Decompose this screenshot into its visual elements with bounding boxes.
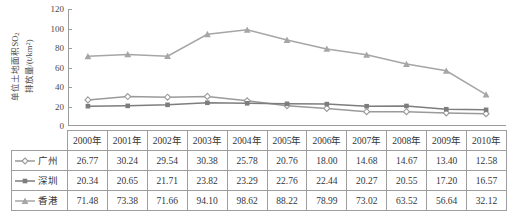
data-point-square-marker (165, 103, 170, 108)
table-row-header-square: 深圳 (12, 171, 68, 191)
data-point-square-marker (86, 104, 91, 109)
data-point-square-marker (364, 104, 369, 109)
table-cell: 30.24 (107, 151, 147, 171)
data-point-square-marker (325, 102, 330, 107)
data-point-square-marker (23, 178, 28, 183)
table-cell: 29.54 (147, 151, 187, 171)
table-column-header: 2010年 (467, 131, 507, 151)
table-cell: 30.38 (187, 151, 227, 171)
series-label: 深圳 (38, 176, 59, 186)
data-table-wrapper: 2000年2001年2002年2003年2004年2005年2006年2007年… (11, 130, 507, 211)
table-cell: 21.71 (147, 171, 187, 191)
data-point-diamond-marker (125, 94, 131, 100)
table-column-header: 2005年 (267, 131, 307, 151)
data-point-diamond-marker (165, 94, 171, 100)
table-cell: 20.27 (347, 171, 387, 191)
table-column-header: 2003年 (187, 131, 227, 151)
table-cell: 63.52 (387, 191, 427, 211)
table-cell: 14.68 (347, 151, 387, 171)
table-column-header: 2006年 (307, 131, 347, 151)
table-cell: 88.22 (267, 191, 307, 211)
legend-triangle-icon (14, 196, 36, 206)
table-cell: 20.55 (387, 171, 427, 191)
table-column-header: 2000年 (68, 131, 108, 151)
data-point-square-marker (125, 104, 130, 109)
table-row: 深圳20.3420.6521.7123.8223.2922.7622.4420.… (12, 171, 507, 191)
data-point-triangle-marker (483, 91, 490, 97)
data-point-diamond-marker (85, 97, 91, 103)
data-point-square-marker (285, 102, 290, 107)
table-cell: 73.38 (107, 191, 147, 211)
data-point-diamond-marker (204, 93, 210, 99)
data-point-square-marker (404, 104, 409, 109)
legend-square-icon (14, 176, 36, 186)
table-header-row: 2000年2001年2002年2003年2004年2005年2006年2007年… (12, 131, 507, 151)
table-column-header: 2001年 (107, 131, 147, 151)
table-row-header-triangle: 香港 (12, 191, 68, 211)
y-tick-label: 20 (55, 102, 64, 111)
data-point-diamond-marker (22, 158, 28, 164)
table-cell: 20.76 (267, 151, 307, 171)
y-axis-title-line-2: 排放量/(t/km2) (22, 32, 34, 100)
plot-area: 020406080100120 (68, 9, 506, 126)
table-cell: 94.10 (187, 191, 227, 211)
series-triangle (85, 26, 490, 97)
table-body: 广州26.7730.2429.5430.3825.7820.7618.0014.… (12, 151, 507, 211)
data-point-square-marker (245, 101, 250, 106)
y-tick-label: 80 (55, 44, 64, 53)
table-row: 香港71.4873.3871.6694.1098.6288.2278.9973.… (12, 191, 507, 211)
table-row-header-diamond: 广州 (12, 151, 68, 171)
table-column-header: 2008年 (387, 131, 427, 151)
table-cell: 22.44 (307, 171, 347, 191)
table-cell: 20.34 (68, 171, 108, 191)
table-column-header: 2007年 (347, 131, 387, 151)
y-axis-title-line-1: 单位土地面积SO2 (10, 32, 23, 100)
table-cell: 78.99 (307, 191, 347, 211)
table-cell: 98.62 (227, 191, 267, 211)
y-tick-label: 100 (51, 24, 65, 33)
data-point-square-marker (484, 108, 489, 113)
table-cell: 73.02 (347, 191, 387, 211)
data-point-diamond-marker (364, 109, 370, 115)
table-cell: 16.57 (467, 171, 507, 191)
table-cell: 26.77 (68, 151, 108, 171)
table-cell: 22.76 (267, 171, 307, 191)
chart-figure: 单位土地面积SO2 排放量/(t/km2) 020406080100120 20… (0, 0, 516, 218)
data-table: 2000年2001年2002年2003年2004年2005年2006年2007年… (11, 130, 507, 211)
y-tick-label: 40 (55, 83, 64, 92)
series-label: 广州 (38, 156, 59, 166)
table-cell: 71.66 (147, 191, 187, 211)
table-cell: 14.67 (387, 151, 427, 171)
legend-diamond-icon (14, 156, 36, 166)
table-cell: 20.65 (107, 171, 147, 191)
table-cell: 23.82 (187, 171, 227, 191)
table-cell: 25.78 (227, 151, 267, 171)
table-cell: 23.29 (227, 171, 267, 191)
table-column-header: 2002年 (147, 131, 187, 151)
table-cell: 18.00 (307, 151, 347, 171)
table-row: 广州26.7730.2429.5430.3825.7820.7618.0014.… (12, 151, 507, 171)
table-cell: 17.20 (427, 171, 467, 191)
table-column-header: 2009年 (427, 131, 467, 151)
data-point-diamond-marker (403, 109, 409, 115)
table-cell: 13.40 (427, 151, 467, 171)
table-corner-cell (12, 131, 68, 151)
table-cell: 32.12 (467, 191, 507, 211)
y-axis-title: 单位土地面积SO2 排放量/(t/km2) (0, 0, 44, 132)
table-cell: 71.48 (68, 191, 108, 211)
table-cell: 56.64 (427, 191, 467, 211)
y-tick-label: 60 (55, 63, 64, 72)
table-column-header: 2004年 (227, 131, 267, 151)
data-point-square-marker (444, 107, 449, 112)
series-label: 香港 (38, 196, 59, 206)
table-cell: 12.58 (467, 151, 507, 171)
data-point-square-marker (205, 100, 210, 105)
y-tick-label: 120 (51, 5, 65, 14)
series-layer (68, 9, 506, 126)
